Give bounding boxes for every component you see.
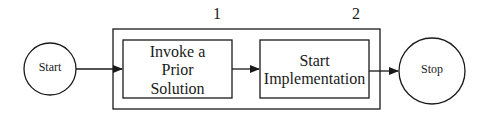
step-1-line-1: Invoke a [123,43,232,61]
step-1-line-2: Prior [123,61,232,79]
step-1-line-3: Solution [123,80,232,98]
step-1-label: Invoke a Prior Solution [123,43,232,98]
stop-label: Stop [399,63,465,77]
step-2-number: 2 [346,5,366,23]
step-2-line-1: Start [260,52,369,70]
step-2-label: Start Implementation [260,52,369,89]
flow-diagram [0,0,491,116]
step-1-number: 1 [207,5,227,23]
start-label: Start [24,61,76,75]
step-2-line-2: Implementation [260,70,369,88]
